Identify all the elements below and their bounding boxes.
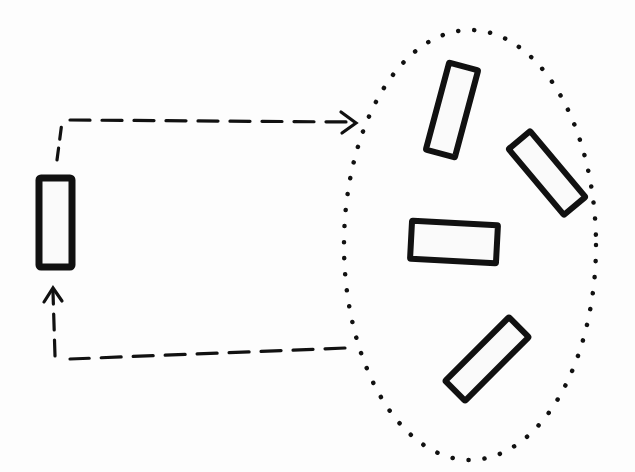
- outbound-arrow: [57, 112, 356, 160]
- return-arrow-horizontal: [70, 348, 345, 359]
- group-item-1-rectangle: [426, 63, 478, 158]
- item-group: [344, 30, 596, 460]
- diagram-svg: [0, 0, 635, 472]
- group-item-3-rectangle: [410, 221, 498, 263]
- return-arrow: [44, 288, 345, 359]
- outbound-arrow-vertical: [57, 122, 62, 160]
- source-item: [39, 178, 72, 267]
- outbound-arrow-horizontal: [70, 120, 352, 122]
- return-arrow-vertical: [53, 292, 55, 356]
- group-item-2-rectangle: [509, 131, 586, 215]
- diagram-canvas: hand-drawn flow diagram: [0, 0, 635, 472]
- source-rectangle: [39, 178, 72, 267]
- group-item-4-rectangle: [445, 317, 528, 400]
